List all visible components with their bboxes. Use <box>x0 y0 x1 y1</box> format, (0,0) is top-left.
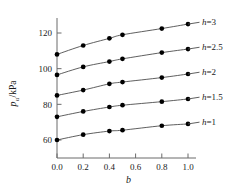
data-point <box>159 26 164 31</box>
data-point <box>81 43 86 48</box>
y-tick-label: 100 <box>39 64 53 74</box>
series-label-h-1: h=1 <box>202 117 216 127</box>
series-line <box>57 24 188 54</box>
data-point <box>55 138 60 143</box>
y-axis-title: pu/kPa <box>7 80 20 108</box>
series-label-h-2-5: h=2.5 <box>202 42 223 52</box>
y-tick-label: 60 <box>43 135 53 145</box>
x-axis-title: b <box>126 174 131 185</box>
data-point <box>159 99 164 104</box>
data-point <box>81 88 86 93</box>
x-tick-label: 0.6 <box>130 162 142 172</box>
data-point <box>107 81 112 86</box>
series-h-2 <box>55 72 191 98</box>
series-label-value: =1.5 <box>207 92 224 102</box>
x-tick-label: 0.8 <box>156 162 168 172</box>
data-point <box>120 103 125 108</box>
data-point <box>159 75 164 80</box>
series-h-1-5 <box>55 97 191 120</box>
y-axis-title-symbol: p <box>7 102 18 108</box>
series-label-text: h=2 <box>202 67 216 77</box>
series-h-1 <box>55 122 191 143</box>
series-line <box>57 99 188 117</box>
chart-figure: 60801001200.00.20.40.60.81.0 bpu/kPa h=3… <box>0 0 233 194</box>
data-point <box>120 32 125 37</box>
series-annotations: h=3h=2.5h=2h=1.5h=1 <box>188 17 223 127</box>
series-label-value: =2 <box>207 67 217 77</box>
data-point <box>55 93 60 98</box>
data-point <box>81 65 86 70</box>
y-axis-title-unit: /kPa <box>8 80 18 98</box>
data-point <box>107 105 112 110</box>
data-point <box>120 80 125 85</box>
data-point <box>120 57 125 62</box>
series-label-h-1-5: h=1.5 <box>202 92 223 102</box>
series-label-value: =2.5 <box>207 42 224 52</box>
y-tick-label: 80 <box>43 100 53 110</box>
series-label-h-3: h=3 <box>202 17 217 27</box>
x-tick-label: 0.4 <box>104 162 116 172</box>
data-point <box>159 50 164 55</box>
tick-labels: 60801001200.00.20.40.60.81.0 <box>39 28 195 171</box>
x-tick-label: 0.0 <box>51 162 63 172</box>
y-tick-label: 120 <box>39 28 53 38</box>
data-point <box>159 123 164 128</box>
data-point <box>107 129 112 134</box>
data-point <box>81 132 86 137</box>
data-point <box>55 73 60 78</box>
series-label-text: h=2.5 <box>202 42 223 52</box>
axes <box>57 18 196 158</box>
series-label-text: h=1 <box>202 117 216 127</box>
data-point <box>107 59 112 64</box>
series-label-h-2: h=2 <box>202 67 216 77</box>
x-tick-label: 0.2 <box>78 162 89 172</box>
data-series <box>55 22 191 143</box>
series-label-text: h=1.5 <box>202 92 223 102</box>
series-label-text: h=3 <box>202 17 217 27</box>
series-line <box>57 74 188 95</box>
series-label-value: =1 <box>207 117 217 127</box>
data-point <box>81 109 86 114</box>
data-point <box>55 114 60 119</box>
data-point <box>55 52 60 57</box>
data-point <box>120 128 125 133</box>
series-line <box>57 49 188 75</box>
data-point <box>107 36 112 41</box>
series-h-2-5 <box>55 47 191 78</box>
x-tick-label: 1.0 <box>182 162 194 172</box>
plot-canvas: 60801001200.00.20.40.60.81.0 bpu/kPa h=3… <box>0 0 233 194</box>
series-label-value: =3 <box>207 17 217 27</box>
